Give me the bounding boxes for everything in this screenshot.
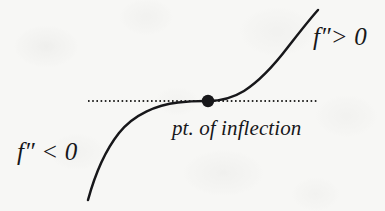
cubic-curve [88, 10, 318, 200]
inflection-point-figure: f″> 0 f″ < 0 pt. of inflection [0, 0, 385, 211]
inflection-point-caption: pt. of inflection [172, 118, 301, 139]
concave-up-label: f″> 0 [313, 24, 367, 49]
concave-down-label: f″ < 0 [17, 139, 77, 164]
inflection-point-marker [202, 95, 214, 107]
